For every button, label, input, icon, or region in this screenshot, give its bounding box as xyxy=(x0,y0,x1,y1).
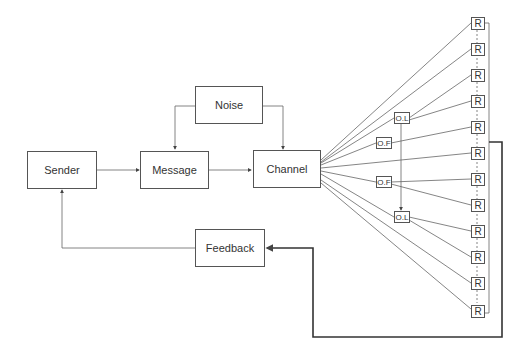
opinion-leader-node: O.L xyxy=(394,211,410,223)
receiver-label: R xyxy=(474,278,481,289)
receiver-node: R xyxy=(471,121,485,134)
receiver-label: R xyxy=(474,122,481,133)
receiver-node: R xyxy=(471,277,485,290)
receiver-label: R xyxy=(474,96,481,107)
receiver-node: R xyxy=(471,305,485,318)
receiver-node: R xyxy=(471,69,485,82)
of-label: O.F xyxy=(377,178,390,187)
receiver-node: R xyxy=(471,225,485,238)
sender-node: Sender xyxy=(27,151,97,189)
message-node: Message xyxy=(140,151,209,189)
of-label: O.F xyxy=(377,139,390,148)
receiver-node: R xyxy=(471,251,485,264)
receiver-node: R xyxy=(471,95,485,108)
receiver-label: R xyxy=(474,70,481,81)
noise-node: Noise xyxy=(195,86,263,124)
receiver-label: R xyxy=(474,44,481,55)
opinion-follower-node: O.F xyxy=(376,176,392,188)
ol-label: O.L xyxy=(396,114,409,123)
feedback-label: Feedback xyxy=(206,242,254,254)
receiver-label: R xyxy=(474,226,481,237)
channel-node: Channel xyxy=(253,150,321,188)
receiver-label: R xyxy=(474,306,481,317)
receiver-node: R xyxy=(471,199,485,212)
receiver-label: R xyxy=(474,200,481,211)
ol-label: O.L xyxy=(396,213,409,222)
receiver-node: R xyxy=(471,173,485,186)
receiver-label: R xyxy=(474,18,481,29)
channel-label: Channel xyxy=(267,163,308,175)
opinion-leader-node: O.L xyxy=(394,112,410,124)
opinion-follower-node: O.F xyxy=(376,137,392,149)
receiver-node: R xyxy=(471,17,485,30)
feedback-node: Feedback xyxy=(195,229,265,267)
receiver-label: R xyxy=(474,174,481,185)
sender-label: Sender xyxy=(44,164,79,176)
message-label: Message xyxy=(152,164,197,176)
receiver-label: R xyxy=(474,148,481,159)
receiver-node: R xyxy=(471,43,485,56)
receiver-node: R xyxy=(471,147,485,160)
noise-label: Noise xyxy=(215,99,243,111)
receiver-label: R xyxy=(474,252,481,263)
